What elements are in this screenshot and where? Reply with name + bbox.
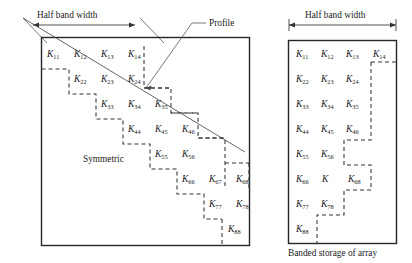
matrix-cell: K77 [208,199,222,210]
symmetric-label: Symmetric [83,154,124,164]
banded-matrix-box [289,41,397,244]
matrix-cell: K23 [100,74,114,85]
table-row: K55 K56 [154,149,195,160]
table-row: K88 [295,224,309,235]
matrix-cell: K55 [295,149,309,160]
table-row: K77 K78 [295,199,334,210]
matrix-cell: K [321,174,329,184]
table-row: K66 K K68 [295,174,361,185]
full-matrix-box [42,38,250,246]
dimension-arrow-right-icon [129,23,135,28]
matrix-cell: K22 [73,74,87,85]
matrix-cell: K34 [320,99,334,110]
table-row: K33 K34 K35 [100,99,168,110]
profile-leader-diagonal [146,23,192,88]
full-matrix-profile-lower-stair [42,69,223,219]
half-band-width-label-left: Half band width [37,10,98,20]
table-row: K11 K12 K13 K14 [295,49,386,60]
matrix-cell: K33 [295,99,309,110]
table-row: K33 K34 K35 [295,99,359,110]
matrix-cell: K35 [154,99,168,110]
matrix-cell: K22 [295,74,309,85]
matrix-cell: K12 [73,49,87,60]
matrix-cell: K78 [320,199,334,210]
matrix-cell: K24 [127,74,141,85]
matrix-cell: K56 [320,149,334,160]
dimension-leader-right [140,18,164,43]
half-band-width-dimension-right: Half band width [289,10,396,31]
table-row: K88 [227,224,241,235]
matrix-cell: K88 [227,224,241,235]
matrix-cell: K44 [295,124,309,135]
matrix-cell: K46 [181,124,195,135]
table-row: K11 K12 K13 K14 [46,49,141,60]
matrix-cell: K68 [235,174,249,185]
matrix-cell: K33 [100,99,114,110]
full-matrix-profile-upper-stair [144,46,225,188]
table-row: K22 K23 K24 [295,74,359,85]
matrix-cell: K23 [320,74,334,85]
matrix-cell: K34 [127,99,141,110]
matrix-cell: K66 [295,174,309,185]
banded-matrix-figure: Half band width Profile Symmetric K11 K1… [0,0,412,263]
matrix-cell: K35 [345,99,359,110]
matrix-cell: K67 [208,174,222,185]
matrix-cell: K24 [345,74,359,85]
dimension-arrow-left-icon [289,23,295,28]
matrix-cell: K12 [320,49,334,60]
table-row: K55 K56 [295,149,334,160]
matrix-cell: K45 [154,124,168,135]
table-row: K44 K45 K46 [295,124,359,135]
profile-label: Profile [209,18,234,28]
dimension-arrow-right-icon [390,23,396,28]
matrix-cell: K14 [372,49,386,60]
matrix-cell: K44 [127,124,141,135]
banded-storage-caption: Banded storage of array [288,248,377,258]
matrix-cell: K55 [154,149,168,160]
matrix-cell: K14 [127,49,141,60]
matrix-cell: K11 [295,49,308,60]
figure-canvas: Half band width Profile Symmetric K11 K1… [0,0,412,263]
matrix-cell: K78 [235,199,249,210]
matrix-cell: K13 [100,49,114,60]
table-row: K66 K67 K68 [181,174,249,185]
matrix-cell: K66 [181,174,195,185]
profile-annotation: Profile [146,18,234,91]
table-row: K22 K23 K24 [73,74,141,85]
matrix-cell: K88 [295,224,309,235]
matrix-cell: K11 [46,49,59,60]
matrix-cell: K13 [345,49,359,60]
table-row: K77 K78 [208,199,249,210]
matrix-cell: K77 [295,199,309,210]
table-row: K44 K45 K46 [127,124,195,135]
matrix-cell: K68 [347,174,361,185]
matrix-cell: K46 [345,124,359,135]
half-band-width-label-right: Half band width [305,10,366,20]
matrix-cell: K56 [181,149,195,160]
matrix-cell: K45 [320,124,334,135]
